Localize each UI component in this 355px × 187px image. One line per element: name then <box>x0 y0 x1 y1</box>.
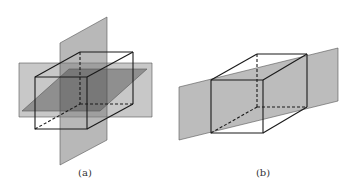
caption-b: (b) <box>256 167 270 178</box>
panel-a: (a) <box>19 17 152 178</box>
diagonal-plane <box>179 48 338 140</box>
panel-b: (b) <box>179 48 338 178</box>
caption-a: (a) <box>78 167 92 178</box>
figure-canvas: (a) (b) <box>0 0 355 187</box>
